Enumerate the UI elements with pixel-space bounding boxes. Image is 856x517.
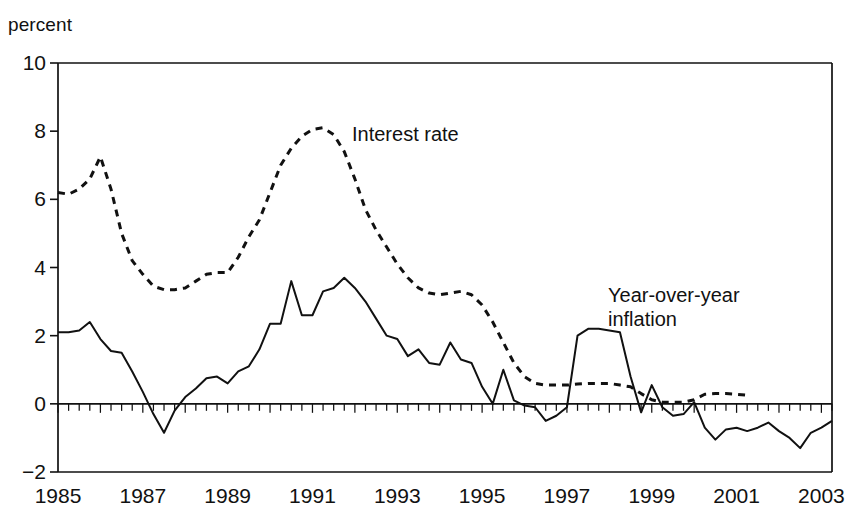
y-tick-label: 2 <box>2 324 46 348</box>
x-tick-label: 1989 <box>183 484 273 508</box>
y-tick-label: 6 <box>2 187 46 211</box>
chart-figure: percent 1086420−2 1985198719891991199319… <box>0 0 856 517</box>
x-tick-label: 1999 <box>607 484 697 508</box>
series-label-interest-rate: Interest rate <box>352 122 459 146</box>
y-tick-label: −2 <box>2 460 46 484</box>
line-chart-plot <box>0 0 856 517</box>
x-tick-label: 2003 <box>776 484 856 508</box>
series-path-interest-rate <box>58 128 747 402</box>
series-label-inflation-line1: Year-over-year <box>608 284 740 306</box>
x-tick-label: 1991 <box>267 484 357 508</box>
series-label-inflation-line2: inflation <box>608 308 677 330</box>
x-tick-label: 2001 <box>692 484 782 508</box>
y-tick-label: 8 <box>2 119 46 143</box>
x-tick-label: 1985 <box>13 484 103 508</box>
y-axis-unit-label: percent <box>8 14 72 36</box>
y-tick-label: 10 <box>2 51 46 75</box>
series-label-inflation: Year-over-yearinflation <box>608 283 740 332</box>
x-tick-label: 1995 <box>437 484 527 508</box>
y-tick-label: 4 <box>2 256 46 280</box>
x-tick-label: 1997 <box>522 484 612 508</box>
x-tick-label: 1993 <box>352 484 442 508</box>
y-tick-label: 0 <box>2 392 46 416</box>
x-tick-label: 1987 <box>98 484 188 508</box>
